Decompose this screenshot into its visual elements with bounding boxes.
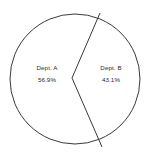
pie-label-dept-b: Dept. B 43.1% xyxy=(86,62,136,86)
pie-label-dept-b-name: Dept. B xyxy=(86,62,136,74)
pie-label-dept-a: Dept. A 56.9% xyxy=(18,62,76,86)
pie-label-dept-b-value: 43.1% xyxy=(86,74,136,86)
pie-label-dept-a-value: 56.9% xyxy=(18,74,76,86)
pie-label-dept-a-name: Dept. A xyxy=(18,62,76,74)
pie-chart: Dept. A 56.9% Dept. B 43.1% xyxy=(0,0,150,158)
